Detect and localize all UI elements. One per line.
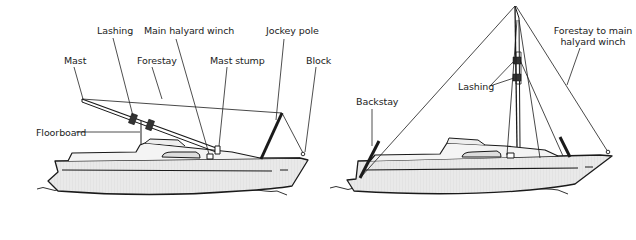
forestay bbox=[82, 99, 282, 113]
winch-right bbox=[507, 153, 514, 158]
main-halyard-winch bbox=[207, 154, 213, 159]
left-leaders bbox=[74, 38, 316, 154]
label-jockey-pole: Jockey pole bbox=[266, 25, 319, 36]
hull bbox=[48, 158, 308, 195]
label-lashing: Lashing bbox=[97, 25, 133, 36]
label-mast: Mast bbox=[64, 55, 86, 66]
label-forestay-to-winch: Forestay to main halyard winch bbox=[548, 25, 636, 47]
label-main-halyard-winch: Main halyard winch bbox=[144, 25, 234, 36]
jockey-pole bbox=[261, 113, 282, 159]
right-leaders bbox=[372, 48, 580, 146]
label-lashing-right: Lashing bbox=[458, 81, 494, 92]
label-mast-stump: Mast stump bbox=[210, 55, 265, 66]
label-forestay-line1: Forestay to main bbox=[548, 25, 636, 36]
lashing-right-2 bbox=[513, 74, 521, 81]
block bbox=[301, 152, 305, 156]
cabin-window bbox=[162, 152, 200, 158]
label-backstay: Backstay bbox=[356, 96, 398, 107]
label-block: Block bbox=[306, 55, 331, 66]
forward-pole bbox=[560, 137, 570, 157]
mast-stump bbox=[215, 146, 220, 154]
hull-right bbox=[347, 155, 612, 194]
cabin-window-right bbox=[462, 151, 501, 157]
label-floorboard: Floorboard bbox=[36, 127, 86, 138]
left-boat bbox=[37, 99, 308, 195]
label-forestay-line2: halyard winch bbox=[548, 36, 636, 47]
label-forestay: Forestay bbox=[137, 55, 177, 66]
block-line bbox=[282, 113, 303, 153]
